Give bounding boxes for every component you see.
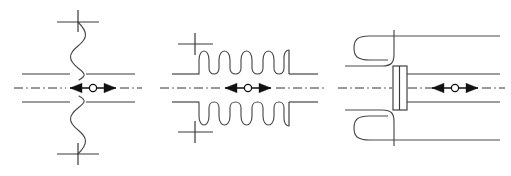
anchor-cross-bottom: [178, 121, 213, 143]
pipe-wall-upper-return: [345, 30, 394, 66]
loop-wall-upper-outer: [354, 36, 500, 60]
diagram-wavy-break-joint: [14, 10, 142, 165]
arrow-hub-circle: [244, 84, 251, 91]
diagram-bellows-compensator: [160, 33, 324, 143]
bellows-corrugation-lower: [199, 102, 289, 126]
arrow-head-left: [432, 83, 444, 93]
axial-movement-arrow: [70, 83, 116, 93]
gland-sleeve-block: [393, 66, 407, 110]
loop-wall-lower-outer: [354, 116, 500, 140]
arrow-hub-circle: [89, 84, 96, 91]
axial-movement-arrow: [432, 83, 478, 93]
expansion-joint-figure: [0, 0, 511, 176]
figure-canvas: [0, 0, 511, 176]
arrow-head-left: [225, 83, 237, 93]
arrow-head-right: [259, 83, 271, 93]
diagram-lyre-loop-joint: [338, 30, 505, 146]
arrow-head-right: [466, 83, 478, 93]
arrow-hub-circle: [451, 84, 458, 91]
anchor-cross-top: [178, 33, 213, 55]
axial-movement-arrow: [225, 83, 271, 93]
anchor-cross-top: [57, 10, 99, 32]
anchor-cross-bottom: [57, 143, 99, 165]
bellows-corrugation-upper: [199, 50, 289, 74]
pipe-wall-lower-return: [345, 110, 394, 146]
arrow-head-right: [104, 83, 116, 93]
arrow-head-left: [70, 83, 82, 93]
